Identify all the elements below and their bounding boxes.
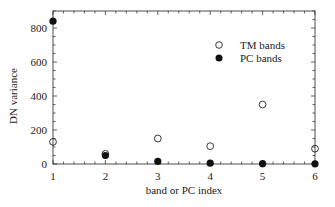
y-tick-label: 400 bbox=[31, 90, 48, 102]
pc-band-point bbox=[49, 18, 56, 25]
y-axis-title: DN variance bbox=[7, 68, 19, 124]
tm-band-point bbox=[154, 135, 161, 142]
x-tick-label: 5 bbox=[260, 170, 266, 182]
pc-band-point bbox=[311, 160, 318, 167]
x-tick-label: 4 bbox=[207, 170, 213, 182]
x-tick-label: 3 bbox=[155, 170, 161, 182]
y-tick-label: 0 bbox=[42, 158, 48, 170]
x-tick-label: 1 bbox=[50, 170, 56, 182]
x-tick-labels: 123456 bbox=[50, 170, 318, 182]
x-tick-label: 6 bbox=[312, 170, 318, 182]
x-axis-title: band or PC index bbox=[146, 184, 223, 196]
pc-band-point bbox=[259, 160, 266, 167]
tm-band-point bbox=[207, 143, 214, 150]
plot-border bbox=[53, 11, 315, 164]
plot-frame bbox=[53, 11, 315, 164]
pc-band-point bbox=[154, 158, 161, 165]
legend-label-pc: PC bands bbox=[240, 52, 282, 64]
x-tick-label: 2 bbox=[103, 170, 109, 182]
y-tick-label: 800 bbox=[31, 22, 48, 34]
tm-band-point bbox=[259, 101, 266, 108]
legend-open-circle-icon bbox=[216, 42, 223, 49]
legend: TM bands PC bands bbox=[216, 39, 285, 64]
y-tick-label: 600 bbox=[31, 56, 48, 68]
y-tick-labels: 0200400600800 bbox=[31, 22, 48, 170]
pc-band-point bbox=[207, 160, 214, 167]
y-tick-label: 200 bbox=[31, 124, 48, 136]
scatter-chart: 123456 0200400600800 band or PC index DN… bbox=[0, 0, 335, 207]
pc-band-point bbox=[102, 152, 109, 159]
legend-label-tm: TM bands bbox=[240, 39, 285, 51]
axis-ticks bbox=[53, 11, 315, 164]
legend-filled-circle-icon bbox=[216, 55, 223, 62]
